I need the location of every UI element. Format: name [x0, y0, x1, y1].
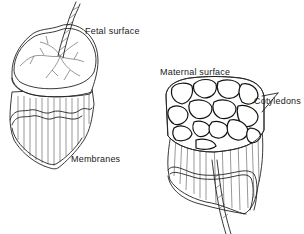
label-membranes: Membranes: [71, 154, 120, 164]
label-cotyledons: Cotyledons: [254, 96, 301, 106]
label-fetal-surface: Fetal surface: [85, 26, 140, 36]
placenta-illustration: Fetal surface Maternal surface Cotyledon…: [0, 0, 304, 234]
placenta-drawing: [0, 0, 304, 234]
label-maternal-surface: Maternal surface: [160, 67, 230, 77]
